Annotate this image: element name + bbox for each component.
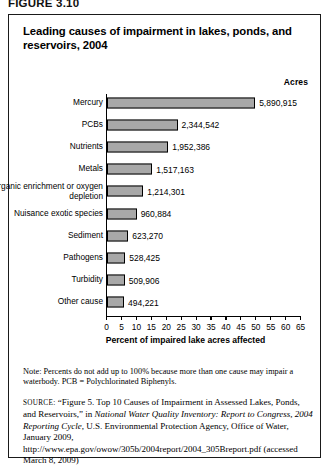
x-axis-tick-label: 40 <box>221 322 230 332</box>
bar: 1,517,163 <box>107 164 152 175</box>
bar-chart-plot: Acres Mercury5,890,915PCBs2,344,542Nutri… <box>9 77 322 327</box>
bar: 623,270 <box>107 230 128 241</box>
bar-row: Turbidity509,906 <box>9 272 322 289</box>
bar-fill <box>107 97 255 108</box>
x-axis-tick-label: 0 <box>104 322 109 332</box>
chart-title: Leading causes of impairment in lakes, p… <box>23 25 308 52</box>
x-axis-tick-label: 35 <box>206 322 215 332</box>
bar: 494,221 <box>107 297 124 308</box>
bar-category-label: PCBs <box>0 120 103 129</box>
bar: 1,952,386 <box>107 141 168 152</box>
bar: 528,425 <box>107 252 125 263</box>
x-axis-tick <box>136 316 137 320</box>
x-axis-tick-label: 15 <box>147 322 156 332</box>
bar: 5,890,915 <box>107 97 255 108</box>
x-axis-tick-label: 10 <box>132 322 141 332</box>
bar-value-label: 5,890,915 <box>259 98 297 108</box>
bar-value-label: 623,270 <box>132 231 163 241</box>
bar-fill <box>107 186 143 197</box>
x-axis-tick-label: 30 <box>192 322 201 332</box>
source-citation: SOURCE: “Figure 5. Top 10 Causes of Impa… <box>23 397 313 466</box>
bar-value-label: 528,425 <box>129 253 160 263</box>
bar-category-label: Organic enrichment or oxygen depletion <box>0 182 103 201</box>
bar-category-label: Metals <box>0 164 103 173</box>
x-axis-tick <box>181 316 182 320</box>
x-axis-tick <box>240 316 241 320</box>
bar-row: Nuisance exotic species960,884 <box>9 205 322 222</box>
x-axis-label: Percent of impaired lake acres affected <box>9 335 322 345</box>
x-axis-tick <box>121 316 122 320</box>
bar-category-label: Nutrients <box>0 142 103 151</box>
x-axis-tick-label: 60 <box>281 322 290 332</box>
bar: 509,906 <box>107 275 124 286</box>
bar-fill <box>107 275 124 286</box>
x-axis-tick <box>196 316 197 320</box>
x-axis-tick <box>255 316 256 320</box>
x-axis-tick-label: 5 <box>119 322 124 332</box>
x-axis-tick-label: 20 <box>162 322 171 332</box>
x-axis-tick <box>210 316 211 320</box>
figure-frame: Leading causes of impairment in lakes, p… <box>8 14 321 458</box>
bar-fill <box>107 141 168 152</box>
bar-value-label: 1,952,386 <box>172 142 210 152</box>
bar-fill <box>107 297 124 308</box>
x-axis-tick <box>106 316 107 320</box>
bar: 2,344,542 <box>107 119 177 130</box>
figure-label: FIGURE 3.10 <box>8 0 79 9</box>
bar-fill <box>107 230 128 241</box>
bar-fill <box>107 208 136 219</box>
bar-category-label: Sediment <box>0 231 103 240</box>
x-axis-tick <box>300 316 301 320</box>
x-axis-tick-label: 65 <box>296 322 305 332</box>
bar: 1,214,301 <box>107 186 143 197</box>
bar-row: Mercury5,890,915 <box>9 94 322 111</box>
bar-category-label: Other cause <box>0 298 103 307</box>
bar-row: Other cause494,221 <box>9 294 322 311</box>
bar-category-label: Turbidity <box>0 275 103 284</box>
bar-value-label: 509,906 <box>129 275 160 285</box>
bar-category-label: Pathogens <box>0 253 103 262</box>
bar-row: Metals1,517,163 <box>9 161 322 178</box>
bar-fill <box>107 164 152 175</box>
bar-row: Pathogens528,425 <box>9 249 322 266</box>
bar-row: Sediment623,270 <box>9 227 322 244</box>
x-axis-tick <box>166 316 167 320</box>
bar-fill <box>107 252 125 263</box>
x-axis-tick-label: 55 <box>266 322 275 332</box>
x-axis-tick <box>225 316 226 320</box>
chart-note: Note: Percents do not add up to 100% bec… <box>23 367 311 387</box>
source-label: SOURCE: <box>23 399 55 407</box>
x-axis-tick-label: 25 <box>177 322 186 332</box>
x-axis-tick-label: 50 <box>251 322 260 332</box>
bar-row: Nutrients1,952,386 <box>9 138 322 155</box>
bar-value-label: 960,884 <box>141 209 172 219</box>
x-axis-tick <box>270 316 271 320</box>
bar-category-label: Mercury <box>0 98 103 107</box>
bar-value-label: 2,344,542 <box>182 120 220 130</box>
bar-category-label: Nuisance exotic species <box>0 209 103 218</box>
bar-value-label: 1,214,301 <box>147 186 185 196</box>
bar-value-label: 494,221 <box>128 297 159 307</box>
x-axis-tick-label: 45 <box>236 322 245 332</box>
x-axis-tick <box>285 316 286 320</box>
acres-column-header: Acres <box>284 77 308 87</box>
bar: 960,884 <box>107 208 136 219</box>
bar-row: Organic enrichment or oxygen depletion1,… <box>9 183 322 200</box>
bar-value-label: 1,517,163 <box>156 164 194 174</box>
x-axis-tick <box>151 316 152 320</box>
bar-row: PCBs2,344,542 <box>9 116 322 133</box>
bar-fill <box>107 119 177 130</box>
